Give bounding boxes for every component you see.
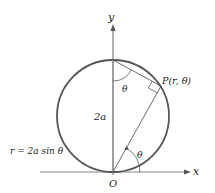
point-p-label: P(r, θ) — [161, 75, 191, 86]
angle-bottom-label: θ — [137, 150, 143, 160]
top-to-p-line — [113, 60, 161, 86]
x-axis-label: x — [193, 165, 200, 178]
y-axis-label: y — [107, 11, 115, 24]
diameter-label: 2a — [93, 111, 106, 122]
angle-arrow-icon — [124, 146, 128, 150]
equation-label: r = 2a sin θ — [10, 146, 64, 156]
angle-top-label: θ — [122, 84, 128, 94]
y-axis-arrow-icon — [111, 24, 116, 31]
origin-label: O — [109, 178, 117, 189]
x-axis-arrow-icon — [184, 170, 191, 175]
angle-arc-top — [113, 70, 131, 81]
polar-circle-diagram: y x O 2a θ P(r, θ) θ r = 2a sin θ — [0, 0, 215, 193]
